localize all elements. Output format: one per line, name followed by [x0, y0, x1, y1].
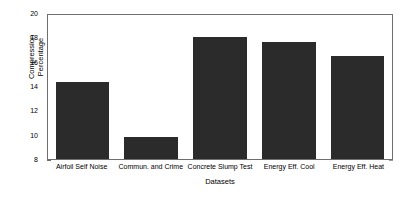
plot-area [47, 14, 393, 160]
bar-slot [186, 15, 255, 159]
x-axis-tick-labels: Airfoil Self NoiseCommun. and CrimeConcr… [47, 163, 393, 171]
bar-slot [48, 15, 117, 159]
bar-1[interactable] [56, 82, 110, 159]
y-tick-mark-right [389, 160, 393, 161]
x-tick-label-4: Energy Eff. Cool [255, 163, 324, 171]
bar-series [48, 15, 392, 159]
y-tick-mark [47, 160, 51, 161]
bar-2[interactable] [124, 137, 178, 159]
x-axis-title: Datasets [47, 177, 393, 186]
bar-slot [254, 15, 323, 159]
x-tick-label-5: Energy Eff. Heat [324, 163, 393, 171]
y-axis-title: Compression Percentage [27, 0, 45, 117]
y-tick-label: 10 [30, 132, 38, 139]
x-tick-label-1: Airfoil Self Noise [47, 163, 116, 171]
bar-chart-figure: 8101214161820 Compression Percentage Air… [0, 0, 412, 198]
bar-slot [323, 15, 392, 159]
x-tick-label-2: Commun. and Crime [116, 163, 185, 171]
y-axis-title-line-2: Percentage [36, 0, 45, 117]
y-axis-title-line-1: Compression [27, 0, 36, 117]
bar-4[interactable] [262, 42, 316, 159]
bar-3[interactable] [193, 37, 247, 159]
x-tick-label-3: Concrete Slump Test [185, 163, 254, 171]
bar-slot [117, 15, 186, 159]
bar-5[interactable] [331, 56, 385, 159]
y-tick-label: 8 [34, 156, 38, 163]
